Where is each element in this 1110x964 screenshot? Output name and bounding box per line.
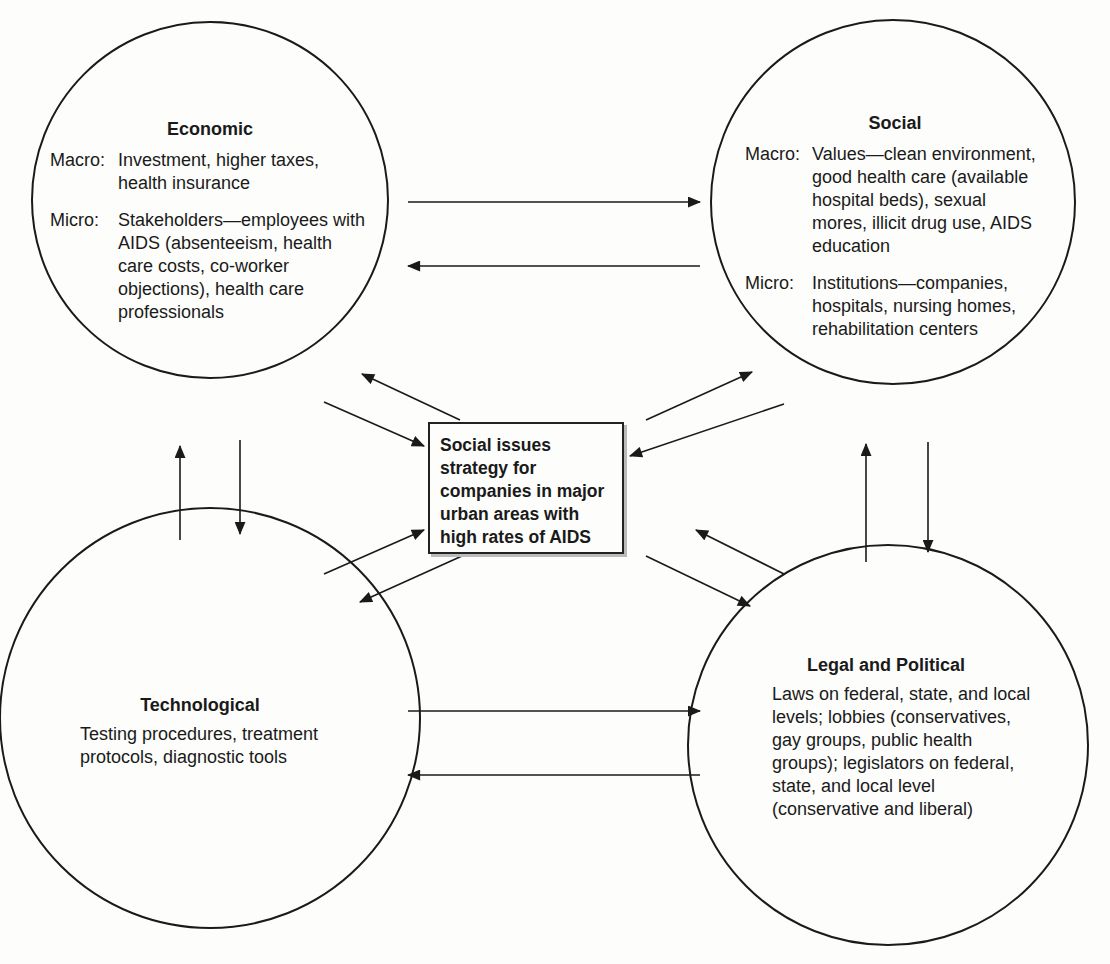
social-macro-label: Macro:	[745, 143, 812, 258]
legal-political-title: Legal and Political	[772, 654, 1034, 677]
arrow-center-to-economic	[362, 374, 460, 420]
legal-political-node: Legal and Political Laws on federal, sta…	[772, 654, 1034, 821]
economic-micro-label: Micro:	[50, 209, 118, 324]
arrow-legal-to-center	[696, 530, 784, 574]
arrow-center-to-tech	[360, 556, 462, 602]
technological-title: Technological	[80, 694, 320, 717]
arrow-center-to-social	[646, 372, 752, 420]
social-micro-text: Institutions—companies, hospitals, nursi…	[812, 272, 1045, 341]
central-strategy-text: Social issues strategy for companies in …	[440, 435, 604, 547]
social-micro: Micro: Institutions—companies, hospitals…	[745, 272, 1045, 341]
arrow-economic-to-center	[324, 402, 424, 446]
economic-macro: Macro: Investment, higher taxes, health …	[50, 149, 370, 195]
arrow-center-to-legal	[646, 556, 750, 606]
social-micro-label: Micro:	[745, 272, 812, 341]
economic-macro-text: Investment, higher taxes, health insuran…	[118, 149, 370, 195]
technological-text: Testing procedures, treatment protocols,…	[80, 724, 318, 767]
economic-micro-text: Stakeholders—employees with AIDS (absent…	[118, 209, 370, 324]
social-macro-text: Values—clean environment, good health ca…	[812, 143, 1045, 258]
legal-political-text: Laws on federal, state, and local levels…	[772, 684, 1030, 819]
central-strategy-box: Social issues strategy for companies in …	[428, 422, 624, 554]
social-node: Social Macro: Values—clean environment, …	[745, 112, 1045, 341]
economic-micro: Micro: Stakeholders—employees with AIDS …	[50, 209, 370, 324]
economic-macro-label: Macro:	[50, 149, 118, 195]
social-macro: Macro: Values—clean environment, good he…	[745, 143, 1045, 258]
social-title: Social	[745, 112, 1045, 135]
technological-node: Technological Testing procedures, treatm…	[80, 694, 320, 769]
arrow-social-to-center	[630, 404, 784, 456]
economic-node: Economic Macro: Investment, higher taxes…	[50, 118, 370, 324]
economic-title: Economic	[50, 118, 370, 141]
